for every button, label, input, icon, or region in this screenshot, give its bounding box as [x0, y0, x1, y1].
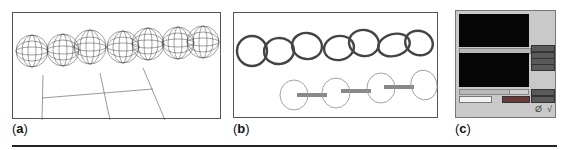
action-button-bottom[interactable] — [531, 96, 555, 103]
action-button-top[interactable] — [531, 89, 555, 96]
panel-c-application-window: Ø √ — [455, 10, 556, 118]
horizontal-scrollbar[interactable] — [459, 89, 510, 95]
caption-c: (c) — [455, 121, 471, 136]
wireframe-spheres-illustration — [13, 13, 222, 120]
panel-a — [12, 12, 221, 119]
text-field[interactable] — [459, 96, 492, 103]
side-button-4[interactable] — [531, 64, 555, 71]
scroll-value-box[interactable] — [509, 89, 529, 95]
top-viewport — [459, 14, 529, 47]
figure-bottom-rule — [12, 145, 557, 147]
check-icon[interactable]: √ — [547, 105, 552, 114]
bottom-viewport — [459, 53, 529, 87]
toolbar-glyph-icon[interactable]: Ø — [535, 105, 542, 114]
rings-illustration — [234, 13, 439, 119]
side-button-1[interactable] — [531, 45, 555, 52]
caption-b: (b) — [233, 121, 250, 136]
action-button-mid[interactable] — [502, 96, 530, 103]
panel-b — [233, 12, 438, 118]
caption-a: (a) — [12, 121, 28, 136]
